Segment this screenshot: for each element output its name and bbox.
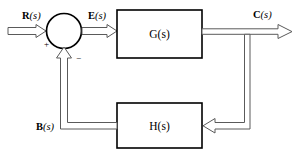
input-signal-arrow xyxy=(8,25,46,38)
error-signal-label: E(s) xyxy=(88,10,107,22)
output-signal-label: C(s) xyxy=(253,9,272,21)
feedback-block-label: H(s) xyxy=(149,120,170,133)
block-diagram-svg: R(s) E(s) C(s) B(s) G(s) H(s) + − xyxy=(0,0,302,160)
summing-minus-sign: − xyxy=(76,53,81,63)
feedback-signal-label: B(s) xyxy=(36,121,55,133)
feedback-branch-line xyxy=(203,34,250,133)
error-signal-arrow xyxy=(82,25,117,38)
forward-block-label: G(s) xyxy=(149,28,170,41)
summing-junction xyxy=(47,14,82,49)
input-signal-label: R(s) xyxy=(22,10,41,22)
feedback-return-line xyxy=(57,47,118,129)
block-diagram-canvas: R(s) E(s) C(s) B(s) G(s) H(s) + − xyxy=(0,0,302,160)
summing-plus-sign: + xyxy=(44,39,49,49)
